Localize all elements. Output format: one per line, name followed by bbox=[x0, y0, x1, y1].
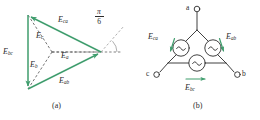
terminal-a-node bbox=[194, 6, 200, 12]
caption-panel-b: (b) bbox=[193, 101, 202, 110]
terminal-label-a: a bbox=[186, 3, 189, 12]
angle-label-pi-over-6: π 6 bbox=[92, 8, 106, 25]
figure-root: Eca Ebc Eab Ec Eb Ea π 6 (a) a b c Eca E… bbox=[0, 0, 260, 120]
terminal-b-node bbox=[235, 72, 241, 78]
branch-a-to-Eca bbox=[185, 30, 197, 42]
label-phasor-Eb: Eb bbox=[30, 61, 38, 69]
ac-source-Ebc-icon bbox=[189, 55, 205, 71]
label-phasor-Ebc: Ebc bbox=[3, 48, 13, 56]
ac-source-Eab-icon bbox=[205, 40, 221, 56]
terminal-label-c: c bbox=[146, 69, 149, 78]
branch-a-to-Eab bbox=[197, 30, 209, 42]
terminal-b-lead bbox=[226, 63, 234, 72]
panel-a-phasor-diagram bbox=[28, 15, 124, 89]
branch-Eab-to-b-corner bbox=[217, 54, 226, 63]
label-phasor-Ec: Ec bbox=[36, 32, 43, 40]
label-phasor-Ea: Ea bbox=[61, 52, 69, 60]
label-source-Ebc: Ebc bbox=[185, 84, 195, 92]
angle-reference-line bbox=[101, 26, 124, 52]
caption-panel-a: (a) bbox=[52, 101, 61, 110]
terminal-label-b: b bbox=[242, 69, 246, 78]
label-phasor-Eab: Eab bbox=[59, 77, 69, 85]
terminal-c-node bbox=[154, 72, 160, 78]
label-phasor-Eca: Eca bbox=[58, 16, 68, 24]
panel-b-circuit-schematic bbox=[154, 6, 240, 79]
ac-source-Eca-icon bbox=[173, 40, 189, 56]
terminal-c-lead bbox=[160, 63, 168, 72]
figure-canvas bbox=[0, 0, 260, 120]
label-source-Eab: Eab bbox=[226, 33, 236, 41]
label-source-Eca: Eca bbox=[148, 33, 158, 41]
branch-Eca-to-c-corner bbox=[168, 54, 177, 63]
angle-arc bbox=[113, 41, 118, 52]
